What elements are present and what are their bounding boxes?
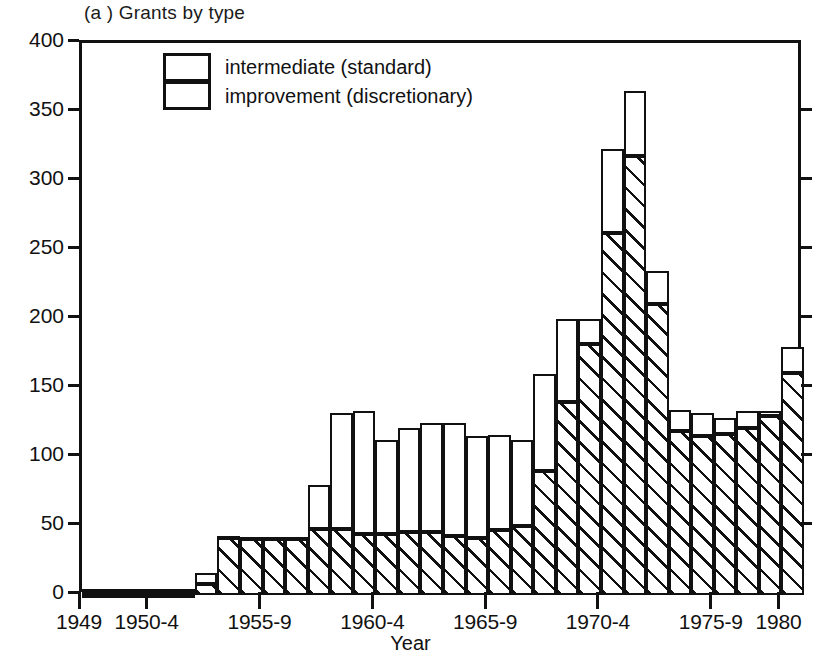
bar-segment-intermediate: [601, 149, 624, 233]
bar-segment-intermediate: [195, 573, 218, 584]
bar-segment-improvement: [781, 373, 804, 595]
bar-segment-intermediate: [308, 485, 331, 529]
bar-segment-intermediate: [217, 536, 240, 540]
bar-segment-intermediate: [466, 436, 489, 538]
bar-segment-intermediate: [669, 410, 692, 431]
x-axis-tick-label: 1960-4: [340, 610, 404, 634]
bar-segment-intermediate: [533, 374, 556, 471]
page-title: (a ) Grants by type: [84, 2, 245, 24]
bar-segment-improvement: [466, 538, 489, 595]
y-axis-tick-label: 200: [4, 304, 64, 328]
right-axis-tick-mark: [801, 453, 812, 456]
y-axis-tick-label: 0: [4, 580, 64, 604]
bar-segment-improvement: [511, 526, 534, 595]
y-axis-tick-label: 150: [4, 373, 64, 397]
bar-segment-intermediate: [714, 418, 737, 433]
bar-segment-improvement: [669, 431, 692, 595]
x-axis-tick-mark: [145, 592, 148, 609]
bar-segment-intermediate: [736, 411, 759, 428]
x-axis-tick-mark: [596, 592, 599, 609]
bar-segment-intermediate: [759, 411, 782, 415]
x-axis-label: Year: [0, 632, 821, 655]
plot-inner: [82, 43, 798, 589]
y-axis-tick-mark: [68, 315, 79, 318]
right-axis-tick-mark: [801, 522, 812, 525]
bar-segment-intermediate: [172, 592, 195, 596]
bar-segment-improvement: [533, 471, 556, 595]
legend-item-improvement: improvement (discretionary): [163, 82, 473, 111]
bar-segment-improvement: [443, 536, 466, 595]
bar-segment-improvement: [398, 532, 421, 595]
y-axis-tick-mark: [68, 384, 79, 387]
x-axis-tick-mark: [777, 592, 780, 609]
bar-segment-intermediate: [578, 319, 601, 344]
bar-segment-intermediate: [443, 423, 466, 536]
y-axis-tick-mark: [68, 108, 79, 111]
bar-segment-intermediate: [624, 91, 647, 156]
bar-segment-intermediate: [488, 435, 511, 530]
bar-segment-intermediate: [781, 347, 804, 373]
bar-segment-improvement: [263, 538, 286, 595]
bar-segment-improvement: [759, 416, 782, 595]
bar-segment-improvement: [308, 529, 331, 595]
y-axis-tick-mark: [68, 39, 79, 42]
y-axis-tick-label: 250: [4, 235, 64, 259]
bar-segment-intermediate: [285, 537, 308, 541]
bar-segment-intermediate: [556, 319, 579, 402]
bar-segment-improvement: [375, 534, 398, 595]
x-axis-tick-mark: [709, 592, 712, 609]
y-axis-tick-label: 400: [4, 28, 64, 52]
legend-item-intermediate: intermediate (standard): [163, 53, 473, 82]
bar-segment-improvement: [556, 402, 579, 595]
x-axis-tick-label: 1965-9: [453, 610, 517, 634]
bar-segment-improvement: [285, 538, 308, 595]
bar-segment-intermediate: [420, 423, 443, 532]
y-axis-tick-label: 300: [4, 166, 64, 190]
bar-segment-intermediate: [353, 411, 376, 534]
legend-label-improvement: improvement (discretionary): [225, 85, 473, 108]
bar-segment-intermediate: [240, 537, 263, 541]
x-axis-tick-label: 1949: [56, 610, 102, 634]
x-axis-tick-label: 1955-9: [227, 610, 291, 634]
bar-segment-intermediate: [105, 592, 128, 596]
x-axis-tick-label: 1970-4: [566, 610, 630, 634]
bar-segment-improvement: [353, 534, 376, 595]
y-axis-tick-label: 50: [4, 511, 64, 535]
legend-label-intermediate: intermediate (standard): [225, 56, 432, 79]
plot-area: [79, 40, 801, 592]
bar-segment-improvement: [646, 304, 669, 595]
bar-segment-improvement: [691, 436, 714, 595]
bar-segment-intermediate: [691, 413, 714, 436]
x-axis-tick-mark: [371, 592, 374, 609]
y-axis-tick-mark: [68, 246, 79, 249]
legend-swatch-hatch-icon: [163, 81, 211, 110]
right-axis-tick-mark: [801, 246, 812, 249]
bar-segment-improvement: [195, 584, 218, 595]
bar-segment-improvement: [601, 233, 624, 595]
bar-segment-improvement: [624, 156, 647, 595]
y-axis-tick-label: 350: [4, 97, 64, 121]
bar-segment-intermediate: [330, 413, 353, 529]
bar-segment-improvement: [714, 434, 737, 595]
bar-segment-intermediate: [82, 592, 105, 596]
y-axis-tick-mark: [68, 453, 79, 456]
right-axis-tick-mark: [801, 177, 812, 180]
bar-segment-intermediate: [263, 537, 286, 541]
bar-segment-intermediate: [398, 428, 421, 532]
y-axis-tick-label: 100: [4, 442, 64, 466]
bar-segment-intermediate: [375, 440, 398, 534]
bar-segment-improvement: [736, 428, 759, 595]
x-axis-tick-label: 1980: [755, 610, 801, 634]
chart-figure: (a ) Grants by type Thousands Year inter…: [0, 0, 821, 660]
y-axis-tick-mark: [68, 177, 79, 180]
bar-segment-improvement: [330, 529, 353, 595]
right-axis-tick-mark: [801, 315, 812, 318]
bar-segment-improvement: [420, 532, 443, 595]
bar-segment-intermediate: [150, 592, 173, 596]
legend: intermediate (standard) improvement (dis…: [163, 53, 473, 111]
x-axis-tick-mark: [78, 592, 81, 609]
x-axis-tick-mark: [258, 592, 261, 609]
legend-swatch-solid-icon: [163, 53, 211, 82]
bar-segment-improvement: [217, 537, 240, 595]
right-axis-tick-mark: [801, 384, 812, 387]
